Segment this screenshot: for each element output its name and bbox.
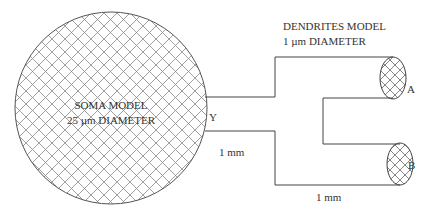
branch-a-cap [380, 57, 406, 99]
branch-length-label: 1 mm [316, 190, 341, 205]
dendrites-label-line1: DENDRITES MODEL [283, 19, 386, 34]
branch-a-label: A [407, 82, 415, 97]
soma-label-line2: 25 µm DIAMETER [0, 113, 222, 128]
branch-b-label: B [408, 158, 415, 173]
soma-label: SOMA MODEL 25 µm DIAMETER [0, 98, 222, 128]
junction-y-label: Y [209, 110, 217, 125]
dendrites-label: DENDRITES MODEL 1 µm DIAMETER [283, 19, 386, 49]
dendrites-label-line2: 1 µm DIAMETER [283, 34, 386, 49]
trunk-length-label: 1 mm [219, 145, 244, 160]
soma-label-line1: SOMA MODEL [0, 98, 222, 113]
dendrite-outline [205, 57, 400, 185]
